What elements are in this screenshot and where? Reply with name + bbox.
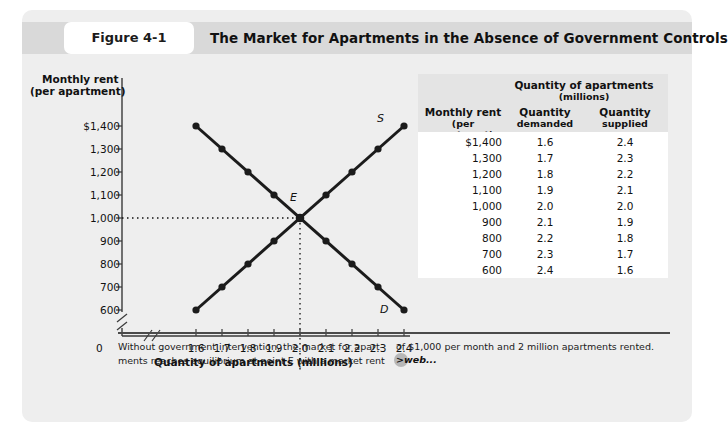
y-axis-title-line2: (per apartment) [30, 85, 126, 97]
table-cell-rent: 1,300 [432, 152, 502, 164]
figure-number-badge: Figure 4-1 [64, 22, 194, 54]
table-cell-supplied: 1.7 [595, 248, 655, 260]
figure-card: Figure 4-1 The Market for Apartments in … [22, 10, 692, 422]
table-cell-rent: 900 [432, 216, 502, 228]
table-col-header-demanded-line2: demanded [506, 118, 584, 129]
table-cell-demanded: 1.8 [515, 168, 575, 180]
table-cell-rent: 600 [432, 264, 502, 276]
table-cell-demanded: 1.7 [515, 152, 575, 164]
table-cell-supplied: 2.2 [595, 168, 655, 180]
y-axis-break-icon [117, 314, 127, 330]
table-cell-rent: 800 [432, 232, 502, 244]
web-link[interactable]: >web... [396, 354, 437, 365]
table-cell-supplied: 2.1 [595, 184, 655, 196]
caption-divider [118, 332, 670, 334]
table-col-header-supplied-line1: Quantity [586, 106, 664, 118]
figure-number-label: Figure 4-1 [64, 22, 194, 54]
demand-curve-label: D [380, 303, 388, 316]
table-cell-demanded: 2.1 [515, 216, 575, 228]
supply-curve-label: S [377, 112, 384, 125]
y-tick-label: 600 [56, 304, 120, 316]
table-cell-demanded: 1.9 [515, 184, 575, 196]
caption-line: ments reaches equilibrium at point E wit… [118, 354, 385, 368]
table-cell-supplied: 2.4 [595, 136, 655, 148]
table-cell-rent: $1,400 [432, 136, 502, 148]
y-tick-label: 1,100 [56, 189, 120, 201]
data-table-body: $1,400 1.6 2.4 1,300 1.7 2.3 1,200 1.8 2… [418, 132, 668, 278]
origin-label: 0 [96, 342, 103, 354]
table-cell-rent: 1,100 [432, 184, 502, 196]
table-cell-supplied: 1.8 [595, 232, 655, 244]
table-cell-demanded: 2.4 [515, 264, 575, 276]
table-col-header-supplied-line2: supplied [586, 118, 664, 129]
caption-line: Without government intervention, the mar… [118, 340, 383, 354]
y-axis-title-line1: Monthly rent [42, 73, 119, 85]
table-group-header: Quantity of apartments [504, 79, 664, 91]
y-tick-label: 1,200 [56, 166, 120, 178]
equilibrium-point-marker [296, 214, 305, 223]
table-cell-demanded: 2.2 [515, 232, 575, 244]
table-group-header-units: (millions) [504, 91, 664, 102]
table-cell-rent: 1,200 [432, 168, 502, 180]
y-tick-label: 800 [56, 258, 120, 270]
y-tick-label: 1,300 [56, 143, 120, 155]
table-col-header-rent-line1: Monthly rent [420, 106, 506, 118]
caption-line: of $1,000 per month and 2 million apartm… [396, 340, 654, 354]
equilibrium-point-label: E [290, 191, 297, 204]
y-tick-label: $1,400 [56, 120, 120, 132]
table-cell-rent: 1,000 [432, 200, 502, 212]
y-tick-label: 900 [56, 235, 120, 247]
table-cell-supplied: 1.6 [595, 264, 655, 276]
table-cell-rent: 700 [432, 248, 502, 260]
table-cell-demanded: 1.6 [515, 136, 575, 148]
data-table-header: Quantity of apartments (millions) Monthl… [418, 74, 668, 132]
y-tick-label: 700 [56, 281, 120, 293]
figure-title: The Market for Apartments in the Absence… [210, 22, 728, 54]
table-cell-demanded: 2.0 [515, 200, 575, 212]
y-tick-label: 1,000 [56, 212, 120, 224]
table-cell-supplied: 1.9 [595, 216, 655, 228]
table-cell-supplied: 2.3 [595, 152, 655, 164]
table-cell-supplied: 2.0 [595, 200, 655, 212]
table-cell-demanded: 2.3 [515, 248, 575, 260]
table-col-header-demanded-line1: Quantity [506, 106, 584, 118]
